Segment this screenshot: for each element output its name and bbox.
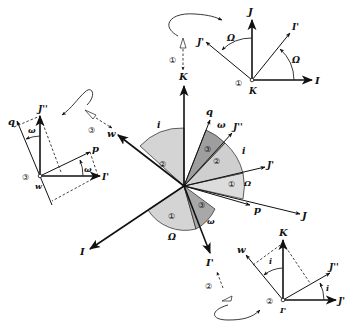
inset2-label-J-dprime: J'' [327, 262, 339, 272]
label-q: q [206, 106, 213, 117]
inset1-label-J: J [246, 6, 254, 17]
inset1-angle-Omega-left: Ω [226, 33, 235, 43]
inset3-dash-top [14, 116, 61, 172]
inset2-marker: ② [266, 297, 273, 306]
inset1-axis-I-prime [252, 33, 290, 80]
inset-2: K w J' J'' i i I' ② ② [205, 227, 345, 320]
inset3-label-J-dprime: J'' [36, 104, 48, 114]
inset3-label-p: p [92, 143, 99, 154]
label-I: I [79, 246, 85, 257]
label-J-dprime: J'' [231, 122, 243, 132]
inset1-curved-arrow-icon [169, 14, 222, 36]
euler-rotation-diagram: K w I I' p J J' J'' q i ω i Ω Ω ω ② ③ ② … [0, 0, 354, 325]
angle-omega-bottom: ω [207, 216, 215, 226]
inset2-view-line [217, 272, 223, 288]
inset2-arc-i-right [320, 283, 324, 300]
angle-i-right: i [242, 146, 246, 156]
inset2-viewer-label: ② [205, 282, 212, 291]
inset2-label-K: K [278, 227, 289, 238]
inset1-label-I: I [314, 75, 320, 86]
sector-label-3-bottom: ③ [198, 201, 205, 210]
sector-label-2-left: ② [159, 160, 166, 169]
inset1-viewer-label: ① [169, 56, 176, 65]
sector-label-1-right: ① [228, 180, 235, 189]
inset2-dash-right [283, 243, 310, 283]
angle-omega-top: ω [217, 120, 226, 130]
inset2-axis-w [246, 255, 283, 300]
inset3-rotation-axis: w [35, 181, 43, 191]
inset3-angle-omega-top: ω [28, 125, 36, 135]
inset3-label-q: q [8, 116, 15, 127]
label-K: K [178, 71, 189, 82]
inset2-viewer-eye-icon [222, 296, 232, 301]
inset1-axis-J-prime [206, 42, 252, 80]
inset-3: J'' q p I' ω ω w ③ ③ [8, 90, 112, 205]
label-J: J [300, 210, 308, 221]
inset2-label-J-prime: J' [336, 296, 345, 306]
inset3-angle-omega-right: ω [84, 164, 92, 174]
inset3-origin-dot [38, 174, 42, 178]
inset2-axis-J-dprime [283, 273, 330, 300]
inset3-label-I-prime: I' [101, 172, 109, 182]
inset2-dash-left [253, 243, 283, 265]
inset3-arc-omega-right [80, 160, 83, 176]
label-I-prime: I' [205, 257, 214, 268]
inset-1: I J I' J' Ω Ω K ① ① [169, 6, 320, 96]
inset3-arc-omega-top [26, 136, 40, 139]
inset1-angle-Omega-right: Ω [291, 55, 300, 65]
inset3-view-line [96, 118, 112, 128]
inset2-label-w: w [237, 244, 246, 255]
sector-label-2-right: ② [213, 157, 220, 166]
label-w: w [107, 128, 116, 139]
sector-label-1-bottom: ① [168, 212, 175, 221]
inset1-marker: ① [235, 79, 242, 88]
inset2-angle-i-left: i [269, 256, 272, 266]
label-J-prime: J' [265, 160, 274, 170]
inset2-arc-i-left [264, 268, 283, 275]
sector-label-3-right: ③ [204, 145, 211, 154]
inset2-angle-i-right: i [326, 283, 329, 293]
inset2-origin-dot [281, 298, 285, 302]
inset1-rotation-axis: K [248, 86, 258, 96]
inset3-marker: ③ [22, 173, 29, 182]
inset1-viewer-eye-icon [180, 38, 186, 48]
inset1-origin-dot [250, 78, 254, 82]
angle-Omega-bottom: Ω [167, 232, 176, 242]
inset2-rotation-axis: I' [279, 305, 286, 315]
inset1-label-J-prime: J' [195, 37, 204, 47]
inset3-viewer-eye-icon [85, 110, 96, 119]
angle-i-left: i [157, 120, 161, 130]
label-p: p [254, 204, 261, 215]
inset3-viewer-label: ③ [88, 126, 95, 135]
inset2-curved-arrow-icon [215, 305, 261, 320]
angle-Omega-right: Ω [243, 178, 252, 188]
inset1-label-I-prime: I' [291, 22, 299, 32]
central-figure: K w I I' p J J' J'' q i ω i Ω Ω ω ② ③ ② … [79, 71, 308, 268]
